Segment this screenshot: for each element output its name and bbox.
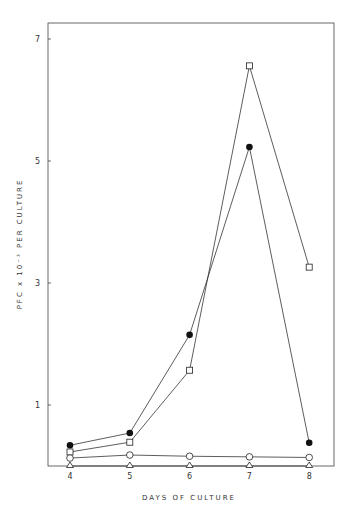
square-marker [246, 63, 252, 69]
triangle-marker [246, 462, 253, 468]
open-circle-marker [306, 454, 313, 461]
x-tick-label: 5 [127, 472, 132, 481]
filled-circle-marker [306, 440, 313, 447]
triangle-marker [126, 462, 133, 468]
triangle-marker [67, 462, 74, 468]
x-tick-label: 8 [307, 472, 312, 481]
x-tick-label: 6 [187, 472, 192, 481]
y-tick-label: 7 [35, 35, 40, 44]
triangle-marker [306, 462, 313, 468]
y-axis-label: PFC x 10⁻³ PER CULTURE [16, 179, 24, 310]
series-line [70, 147, 309, 445]
square-marker [127, 439, 133, 445]
series-line [70, 66, 309, 452]
square-marker [67, 449, 73, 455]
triangle-marker [186, 462, 193, 468]
open-circle-marker [246, 454, 253, 461]
y-tick-label: 3 [35, 279, 40, 288]
open-circle-marker [186, 453, 193, 460]
line-chart: 135745678DAYS OF CULTUREPFC x 10⁻³ PER C… [0, 0, 351, 514]
y-tick-label: 5 [35, 157, 40, 166]
x-axis-label: DAYS OF CULTURE [142, 494, 236, 502]
filled-circle-marker [246, 144, 253, 151]
open-circle-marker [67, 455, 74, 462]
filled-circle-marker [67, 442, 74, 449]
filled-circle-marker [186, 332, 193, 339]
x-tick-label: 7 [247, 472, 252, 481]
plot-frame [48, 23, 334, 466]
square-marker [187, 367, 193, 373]
x-tick-label: 4 [67, 472, 72, 481]
open-circle-marker [127, 452, 134, 459]
y-tick-label: 1 [35, 401, 40, 410]
filled-circle-marker [127, 430, 134, 437]
square-marker [306, 264, 312, 270]
